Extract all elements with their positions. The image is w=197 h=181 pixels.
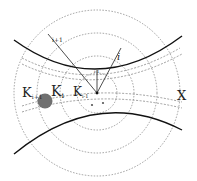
diagram: Ki+1 Ki Ki-1 i+1 i i-1 X xyxy=(0,0,197,181)
small-dot xyxy=(91,104,93,106)
label-k-i-plus-1: Ki+1 xyxy=(22,86,42,100)
label-k-i: Ki xyxy=(51,84,64,100)
center-point xyxy=(96,92,99,95)
label-x: X xyxy=(177,89,186,102)
label-radius-i-plus-1: i+1 xyxy=(52,37,63,43)
label-k-i-minus-1: Ki-1 xyxy=(73,86,88,99)
label-radius-i-minus-1: i-1 xyxy=(94,70,99,74)
label-radius-i: i xyxy=(117,52,120,62)
small-dot xyxy=(102,102,104,104)
